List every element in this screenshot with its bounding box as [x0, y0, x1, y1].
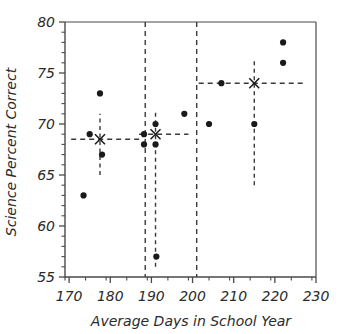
y-axis-tick-labels: 556065707580 — [37, 14, 55, 285]
data-point — [152, 121, 158, 127]
data-point — [206, 121, 212, 127]
group-mean-lines — [71, 83, 306, 139]
y-tick-label: 75 — [37, 65, 55, 81]
x-tick-label: 220 — [261, 288, 288, 304]
x-tick-label: 170 — [56, 288, 83, 304]
group-error-bars — [100, 58, 254, 267]
data-point — [87, 131, 93, 137]
x-tick-label: 210 — [220, 288, 247, 304]
data-point — [97, 90, 103, 96]
data-point — [141, 131, 147, 137]
x-tick-label: 190 — [138, 288, 165, 304]
data-point — [80, 192, 86, 198]
x-tick-label: 200 — [179, 288, 206, 304]
y-tick-label: 80 — [37, 14, 55, 30]
y-tick-label: 65 — [37, 167, 55, 183]
chart-figure: 170180190200210220230 556065707580 Avera… — [0, 0, 347, 334]
y-axis-label: Science Percent Correct — [3, 67, 19, 236]
data-point — [153, 254, 159, 260]
data-point — [181, 111, 187, 117]
y-tick-label: 55 — [37, 269, 55, 285]
x-axis-ticks — [65, 277, 316, 283]
data-point-markers — [80, 39, 286, 259]
y-tick-label: 70 — [37, 116, 55, 132]
data-point — [280, 39, 286, 45]
group-separator-lines — [145, 22, 196, 277]
data-point — [280, 60, 286, 66]
x-axis-label: Average Days in School Year — [90, 313, 292, 329]
data-point — [152, 141, 158, 147]
x-tick-label: 180 — [97, 288, 124, 304]
data-point — [218, 80, 224, 86]
data-point — [141, 141, 147, 147]
data-point — [251, 121, 257, 127]
y-axis-ticks — [59, 22, 65, 277]
x-tick-label: 230 — [303, 288, 330, 304]
x-axis-tick-labels: 170180190200210220230 — [56, 288, 330, 304]
scatter-plot-canvas: 170180190200210220230 556065707580 Avera… — [0, 0, 347, 334]
plot-frame — [65, 22, 316, 277]
y-tick-label: 60 — [37, 218, 55, 234]
data-point — [99, 152, 105, 158]
